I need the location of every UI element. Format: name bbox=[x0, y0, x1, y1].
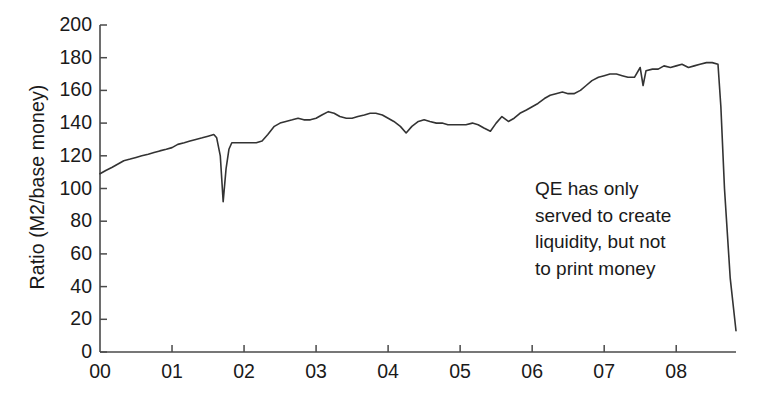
chart-annotation: QE has only served to create liquidity, … bbox=[535, 176, 671, 282]
annotation-line-1: QE has only bbox=[535, 176, 671, 203]
y-tick-label: 160 bbox=[48, 79, 92, 99]
y-tick-label: 140 bbox=[48, 112, 92, 132]
annotation-line-3: liquidity, but not bbox=[535, 229, 671, 256]
x-tick-label: 05 bbox=[440, 360, 480, 382]
x-tick-label: 04 bbox=[368, 360, 408, 382]
x-tick-label: 08 bbox=[656, 360, 696, 382]
y-tick-label: 80 bbox=[48, 210, 92, 230]
x-tick-label: 06 bbox=[512, 360, 552, 382]
x-tick-label: 03 bbox=[296, 360, 336, 382]
x-tick-label: 01 bbox=[152, 360, 192, 382]
x-axis-ticks bbox=[172, 345, 676, 352]
y-tick-label: 100 bbox=[48, 178, 92, 198]
y-tick-label: 120 bbox=[48, 145, 92, 165]
x-tick-label: 02 bbox=[224, 360, 264, 382]
annotation-line-2: served to create bbox=[535, 203, 671, 230]
annotation-line-4: to print money bbox=[535, 256, 671, 283]
y-tick-label: 40 bbox=[48, 276, 92, 296]
x-tick-label: 07 bbox=[584, 360, 624, 382]
y-tick-label: 200 bbox=[48, 14, 92, 34]
y-axis-ticks bbox=[100, 25, 107, 352]
x-tick-label: 00 bbox=[80, 360, 120, 382]
y-tick-label: 180 bbox=[48, 47, 92, 67]
chart-figure: Ratio (M2/base money) 020406080100120140… bbox=[0, 0, 762, 411]
y-tick-label: 0 bbox=[48, 341, 92, 361]
y-tick-label: 20 bbox=[48, 308, 92, 328]
y-axis-label: Ratio (M2/base money) bbox=[24, 22, 50, 352]
y-tick-label: 60 bbox=[48, 243, 92, 263]
